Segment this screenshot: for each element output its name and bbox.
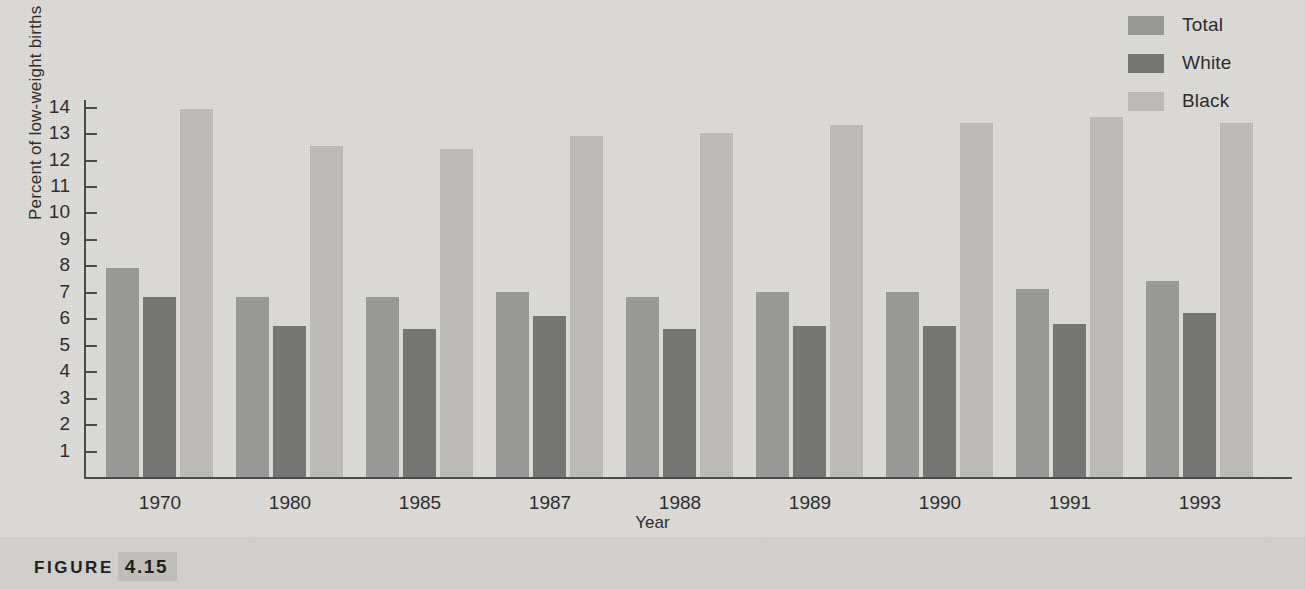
x-axis-tick-label: 1980 xyxy=(220,492,360,514)
bar-black-1988 xyxy=(700,133,733,477)
legend-item-total: Total xyxy=(1128,6,1298,44)
bar-total-1993 xyxy=(1146,281,1179,477)
x-axis-tick-label: 1991 xyxy=(1000,492,1140,514)
bar-total-1987 xyxy=(496,292,529,477)
x-axis-tick-label: 1990 xyxy=(870,492,1010,514)
bar-white-1970 xyxy=(143,297,176,477)
y-axis-tick-label: 5 xyxy=(30,334,70,356)
y-axis-tick xyxy=(86,133,97,135)
y-axis-line xyxy=(84,100,86,479)
bar-group: 1988 xyxy=(626,100,733,477)
bar-white-1993 xyxy=(1183,313,1216,477)
plot-area: 1234567891011121314 19701980198519871988… xyxy=(84,100,1292,479)
y-axis-tick-label: 1 xyxy=(30,440,70,462)
y-axis-tick-label: 7 xyxy=(30,281,70,303)
bar-black-1987 xyxy=(570,136,603,477)
legend-label-white: White xyxy=(1182,52,1232,74)
bar-total-1970 xyxy=(106,268,139,477)
bar-white-1985 xyxy=(403,329,436,477)
bar-group: 1991 xyxy=(1016,100,1123,477)
bar-black-1980 xyxy=(310,146,343,477)
y-axis-tick xyxy=(86,451,97,453)
y-axis-tick xyxy=(86,239,97,241)
bar-white-1988 xyxy=(663,329,696,477)
x-axis-tick-label: 1970 xyxy=(90,492,230,514)
y-axis-tick-label: 4 xyxy=(30,360,70,382)
legend-label-total: Total xyxy=(1182,14,1223,36)
bar-white-1987 xyxy=(533,316,566,477)
y-axis-tick xyxy=(86,107,97,109)
y-axis-tick xyxy=(86,345,97,347)
y-axis-tick xyxy=(86,265,97,267)
caption-band xyxy=(0,537,1305,589)
bar-group: 1987 xyxy=(496,100,603,477)
figure-container: Total White Black 1234567891011121314 19… xyxy=(0,0,1305,589)
bar-group: 1985 xyxy=(366,100,473,477)
bar-black-1990 xyxy=(960,123,993,478)
y-axis-tick xyxy=(86,212,97,214)
x-axis-tick-label: 1985 xyxy=(350,492,490,514)
bar-black-1970 xyxy=(180,109,213,477)
y-axis-tick-label: 2 xyxy=(30,413,70,435)
bar-total-1990 xyxy=(886,292,919,477)
figure-caption-word: FIGURE xyxy=(34,558,114,578)
legend-swatch-white xyxy=(1128,54,1164,73)
figure-caption-number: 4.15 xyxy=(118,552,177,581)
bar-white-1990 xyxy=(923,326,956,477)
x-axis-line xyxy=(84,477,1292,479)
y-axis-tick xyxy=(86,186,97,188)
bar-white-1980 xyxy=(273,326,306,477)
bar-black-1993 xyxy=(1220,123,1253,478)
bar-total-1980 xyxy=(236,297,269,477)
bar-group: 1980 xyxy=(236,100,343,477)
bar-black-1991 xyxy=(1090,117,1123,477)
y-axis-tick-label: 8 xyxy=(30,254,70,276)
legend-swatch-total xyxy=(1128,16,1164,35)
y-axis-tick xyxy=(86,371,97,373)
y-axis-tick xyxy=(86,424,97,426)
bar-total-1988 xyxy=(626,297,659,477)
bar-group: 1990 xyxy=(886,100,993,477)
bar-total-1989 xyxy=(756,292,789,477)
figure-caption: FIGURE 4.15 xyxy=(34,552,177,581)
bar-group: 1993 xyxy=(1146,100,1253,477)
x-axis-title: Year xyxy=(0,513,1305,533)
y-axis-tick xyxy=(86,318,97,320)
y-axis-tick xyxy=(86,292,97,294)
x-axis-tick-label: 1987 xyxy=(480,492,620,514)
bar-group: 1970 xyxy=(106,100,213,477)
x-axis-tick-label: 1993 xyxy=(1130,492,1270,514)
bar-group: 1989 xyxy=(756,100,863,477)
x-axis-tick-label: 1988 xyxy=(610,492,750,514)
bar-white-1991 xyxy=(1053,324,1086,477)
bar-white-1989 xyxy=(793,326,826,477)
y-axis-tick-label: 3 xyxy=(30,387,70,409)
legend-item-white: White xyxy=(1128,44,1298,82)
bar-black-1989 xyxy=(830,125,863,477)
y-axis-tick xyxy=(86,398,97,400)
y-axis-title: Percent of low-weight births xyxy=(26,0,46,220)
bar-total-1985 xyxy=(366,297,399,477)
y-axis-tick-label: 9 xyxy=(30,228,70,250)
y-axis-tick-label: 6 xyxy=(30,307,70,329)
bar-total-1991 xyxy=(1016,289,1049,477)
x-axis-tick-label: 1989 xyxy=(740,492,880,514)
y-axis-tick xyxy=(86,160,97,162)
bar-black-1985 xyxy=(440,149,473,477)
